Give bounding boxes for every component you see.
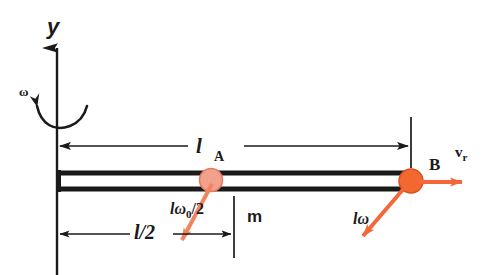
bead-mass-m-label: m [247, 208, 262, 225]
velocity-l-omega0-half-label: lω0/2 [170, 201, 204, 220]
vector-l-omega-arrow [363, 186, 406, 236]
angular-velocity-label: ω [19, 85, 29, 98]
physics-diagram-canvas: y ω l A B vr m l/2 lω0/2 lω [0, 0, 487, 275]
diagram-vector-graphics [0, 0, 487, 275]
dimension-line-l-a-group [60, 117, 411, 168]
vr-subscript: r [463, 151, 468, 163]
length-l-label: l [196, 136, 202, 157]
vector-l-omega-group [363, 186, 406, 236]
rod-group [57, 170, 414, 192]
velocity-l-omega-label: lω [353, 211, 369, 227]
lw0-tail: /2 [192, 200, 204, 217]
half-length-label: l/2 [134, 222, 155, 242]
y-axis-label: y [47, 16, 59, 38]
point-b-label: B [429, 156, 440, 173]
length-l-subscript-a-label: A [214, 150, 224, 164]
angular-velocity-arc-group [37, 106, 87, 128]
lw0-base: lω [170, 200, 186, 217]
vr-base: v [455, 144, 463, 160]
lw-base: lω [353, 210, 369, 227]
relative-velocity-vr-label: vr [455, 145, 467, 163]
angular-velocity-arc [37, 106, 87, 128]
